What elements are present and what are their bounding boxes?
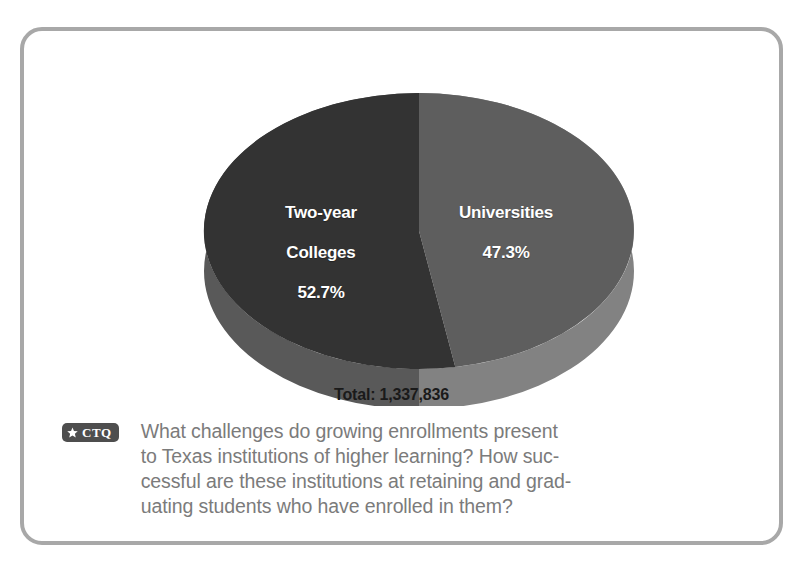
slice-label-line1: Two-year [246,203,396,223]
ctq-question-text: What challenges do growing enrollments p… [141,419,571,519]
slice-label-line2: Colleges [246,243,396,263]
star-icon [67,427,78,438]
ctq-badge-label: CTQ [82,426,112,439]
pie-slice-label-universities: Universities 47.3% [426,183,586,283]
ctq-line: to Texas institutions of higher learning… [141,444,571,469]
pie-chart: Two-year Colleges 52.7% Universities 47.… [194,56,644,406]
slice-label-line1: Universities [426,203,586,223]
ctq-line: What challenges do growing enrollments p… [141,419,571,444]
slice-label-value: 52.7% [246,283,396,303]
ctq-badge: CTQ [62,423,119,442]
ctq-line: cessful are these institutions at retain… [141,469,571,494]
figure-frame: Two-year Colleges 52.7% Universities 47.… [20,27,783,545]
ctq-line: uating students who have enrolled in the… [141,494,571,519]
slice-label-value: 47.3% [426,243,586,263]
pie-slice-label-two-year-colleges: Two-year Colleges 52.7% [246,183,396,323]
chart-total-label: Total: 1,337,836 [24,386,759,404]
ctq-block: CTQ What challenges do growing enrollmen… [62,419,752,519]
